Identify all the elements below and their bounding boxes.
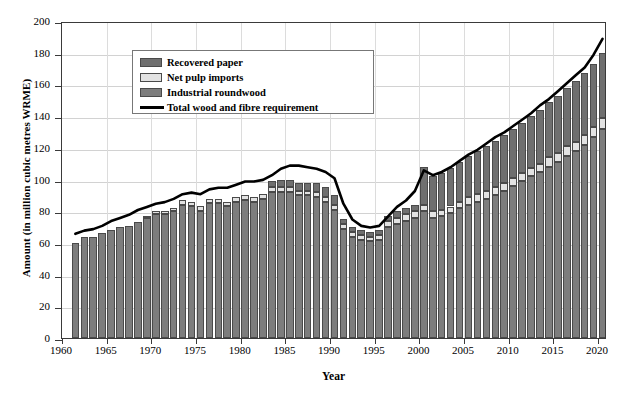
y-axis-tick (55, 150, 62, 151)
y-axis-tick (55, 23, 62, 24)
legend-item-total-line: Total wood and fibre requirement (140, 100, 367, 115)
y-axis-tick-label: 200 (10, 16, 50, 27)
y-axis-tick (55, 86, 62, 87)
legend-swatch-net-pulp-imports-icon (140, 73, 162, 82)
x-axis-tick-label: 1960 (38, 344, 84, 356)
x-axis-tick-label: 1995 (351, 344, 397, 356)
chart-container: Amount (in million cubic metres WRME) Re… (0, 0, 623, 395)
y-axis-tick-label: 0 (10, 333, 50, 344)
plot-area: Recovered paper Net pulp imports Industr… (61, 22, 606, 339)
x-axis-tick-label: 2015 (529, 344, 575, 356)
x-axis-tick-label: 1985 (261, 344, 307, 356)
y-axis-tick (55, 308, 62, 309)
y-axis-tick-label: 160 (10, 79, 50, 90)
y-axis-tick-label: 40 (10, 270, 50, 281)
y-axis-tick (55, 182, 62, 183)
legend-label-industrial-roundwood: Industrial roundwood (167, 87, 266, 98)
legend-swatch-recovered-paper-icon (140, 58, 162, 67)
y-axis-tick (55, 277, 62, 278)
legend-swatch-industrial-roundwood-icon (140, 88, 162, 97)
x-axis-tick-label: 2000 (395, 344, 441, 356)
legend-item-recovered-paper: Recovered paper (140, 55, 367, 70)
x-axis-tick-label: 1990 (306, 344, 352, 356)
y-axis-tick-label: 80 (10, 206, 50, 217)
y-axis-tick (55, 340, 62, 341)
legend-label-total-line: Total wood and fibre requirement (167, 102, 318, 113)
y-axis-tick-label: 120 (10, 143, 50, 154)
x-axis-tick-label: 1970 (127, 344, 173, 356)
x-axis-title: Year (61, 370, 606, 382)
x-axis-tick-label: 1965 (83, 344, 129, 356)
y-axis-tick-label: 140 (10, 111, 50, 122)
legend-item-industrial-roundwood: Industrial roundwood (140, 85, 367, 100)
legend-item-net-pulp-imports: Net pulp imports (140, 70, 367, 85)
y-axis-tick-label: 60 (10, 238, 50, 249)
x-axis-tick-label: 1975 (172, 344, 218, 356)
legend-label-net-pulp-imports: Net pulp imports (167, 72, 243, 83)
x-axis-tick-label: 2020 (574, 344, 620, 356)
y-axis-tick (55, 55, 62, 56)
y-axis-tick-label: 180 (10, 48, 50, 59)
y-axis-tick-label: 100 (10, 175, 50, 186)
y-axis-tick-label: 20 (10, 301, 50, 312)
x-axis-tick-label: 2005 (440, 344, 486, 356)
legend-swatch-total-line-icon (140, 106, 164, 109)
x-axis-tick-label: 1980 (217, 344, 263, 356)
x-axis-tick-label: 2010 (485, 344, 531, 356)
y-axis-tick (55, 213, 62, 214)
legend-label-recovered-paper: Recovered paper (167, 57, 243, 68)
y-axis-tick (55, 118, 62, 119)
chart-legend: Recovered paper Net pulp imports Industr… (132, 50, 374, 114)
y-axis-tick (55, 245, 62, 246)
